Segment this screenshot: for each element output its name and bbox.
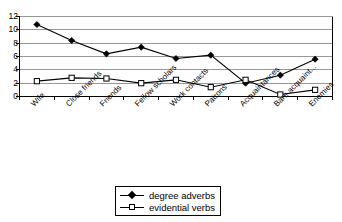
- data-point-diamond: [103, 51, 109, 57]
- data-point-diamond: [34, 21, 40, 27]
- line-chart: 024681012 WifeClose friendsFriendsFellow…: [0, 0, 342, 222]
- legend-item-evidential-verbs: evidential verbs: [119, 201, 215, 213]
- data-point-square: [34, 79, 39, 84]
- open-square-marker-icon: [119, 202, 145, 213]
- filled-diamond-marker-icon: [119, 190, 145, 201]
- data-point-square: [69, 75, 74, 80]
- legend-item-degree-adverbs: degree adverbs: [119, 189, 215, 201]
- data-point-square: [243, 77, 248, 82]
- data-point-square: [104, 76, 109, 81]
- x-axis-category-labels: WifeClose friendsFriendsFellow scholarsW…: [0, 96, 342, 166]
- chart-legend: degree adverbs evidential verbs: [115, 186, 221, 216]
- data-point-square: [139, 81, 144, 86]
- data-point-diamond: [138, 44, 144, 50]
- data-point-diamond: [312, 56, 318, 62]
- data-point-square: [173, 77, 178, 82]
- data-point-square: [208, 85, 213, 90]
- data-point-diamond: [69, 37, 75, 43]
- legend-label: degree adverbs: [145, 190, 215, 201]
- legend-label: evidential verbs: [145, 202, 215, 213]
